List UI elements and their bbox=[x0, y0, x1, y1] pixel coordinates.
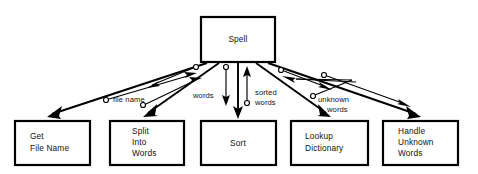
flow-label-file-name: file name bbox=[113, 95, 145, 104]
module-lookup-dictionary-label-2: Dictionary bbox=[305, 143, 344, 153]
flow-labels-group: file name words sorted words unknown wor… bbox=[113, 88, 349, 114]
couple-sorted-words-up bbox=[243, 66, 251, 106]
call-arrows-group bbox=[47, 63, 421, 119]
couple-words-down bbox=[222, 65, 230, 107]
flow-label-sorted-words-1: sorted bbox=[255, 88, 277, 97]
module-split-into-words-label-3: Words bbox=[132, 148, 157, 158]
flow-label-words: words bbox=[192, 91, 214, 100]
module-lookup-dictionary[interactable]: Lookup Dictionary bbox=[291, 121, 368, 165]
structure-chart-diagram: Spell Get File Name Split Into Words Sor… bbox=[0, 0, 478, 174]
module-lookup-dictionary-label-1: Lookup bbox=[305, 131, 333, 141]
module-spell-label: Spell bbox=[228, 34, 247, 44]
module-split-into-words-label-1: Split bbox=[132, 126, 149, 136]
module-boxes-group: Spell Get File Name Split Into Words Sor… bbox=[15, 17, 458, 165]
module-sort[interactable]: Sort bbox=[201, 121, 276, 165]
module-handle-unknown-words-label-1: Handle bbox=[398, 126, 425, 136]
module-handle-unknown-words[interactable]: Handle Unknown Words bbox=[383, 121, 458, 165]
module-handle-unknown-words-label-2: Unknown bbox=[398, 137, 434, 147]
module-spell[interactable]: Spell bbox=[201, 17, 275, 62]
module-split-into-words[interactable]: Split Into Words bbox=[110, 121, 184, 165]
call-sort bbox=[233, 63, 243, 119]
module-sort-label: Sort bbox=[230, 138, 246, 148]
module-get-file-name-label-2: File Name bbox=[30, 143, 69, 153]
module-get-file-name[interactable]: Get File Name bbox=[15, 121, 90, 165]
flow-label-sorted-words-2: words bbox=[254, 98, 276, 107]
flow-label-unknown-words-2: words bbox=[326, 105, 348, 114]
call-get-file-name bbox=[47, 63, 207, 119]
module-get-file-name-label-1: Get bbox=[30, 131, 44, 141]
module-handle-unknown-words-label-3: Words bbox=[398, 148, 423, 158]
structure-chart-canvas: Spell Get File Name Split Into Words Sor… bbox=[0, 0, 478, 174]
module-split-into-words-label-2: Into bbox=[132, 137, 147, 147]
flow-label-unknown-words-1: unknown bbox=[318, 95, 349, 104]
